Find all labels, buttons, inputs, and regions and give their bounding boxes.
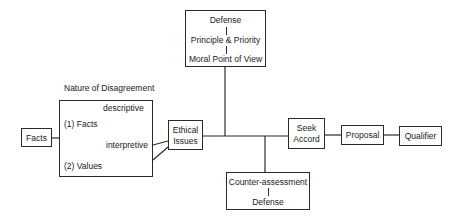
accord-label: Accord <box>289 135 324 144</box>
principle-priority-label: Principle & Priority <box>186 36 265 45</box>
descriptive-label: descriptive <box>103 104 144 113</box>
proposal-box: Proposal <box>341 125 384 145</box>
counter-defense-label: Defense <box>227 198 309 207</box>
facts-label: Facts <box>22 134 51 143</box>
qualifier-label: Qualifier <box>400 132 441 141</box>
moral-point-label: Moral Point of View <box>186 55 265 64</box>
defense-label: Defense <box>186 16 265 25</box>
ethical-label: Ethical <box>169 126 202 135</box>
nature-of-disagreement-title: Nature of Disagreement <box>64 84 154 93</box>
proposal-label: Proposal <box>342 131 383 140</box>
facts-item: (1) Facts <box>64 120 98 129</box>
divider-line <box>226 46 227 54</box>
qualifier-box: Qualifier <box>399 126 442 146</box>
disagreement-box: (1) Facts descriptive interpretive (2) V… <box>59 100 153 177</box>
issues-label: Issues <box>169 137 202 146</box>
divider-line <box>268 188 269 196</box>
ethical-issues-box: Ethical Issues <box>168 120 203 150</box>
values-item: (2) Values <box>64 162 102 171</box>
facts-box: Facts <box>21 128 52 147</box>
defense-principle-box: Defense Principle & Priority Moral Point… <box>185 10 266 67</box>
counter-assessment-label: Counter-assessment <box>227 178 309 187</box>
interpretive-label: interpretive <box>106 141 148 150</box>
seek-label: Seek <box>289 124 324 133</box>
counter-assessment-box: Counter-assessment Defense <box>226 172 310 210</box>
seek-accord-box: Seek Accord <box>288 118 325 149</box>
divider-line <box>226 27 227 35</box>
